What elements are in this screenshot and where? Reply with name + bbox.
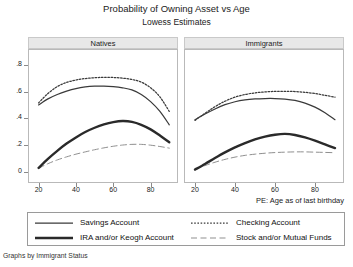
y-axis-tick-label: .8 [4, 60, 22, 67]
footer-caption: Graphs by Immigrant Status [3, 252, 88, 259]
y-axis-tick-label: 0 [4, 167, 22, 174]
x-axis-tickmark [235, 183, 236, 187]
legend-swatch-savings-account [34, 218, 74, 228]
legend-swatch-stock-mutual-funds [190, 233, 230, 243]
y-axis-tickmark [24, 172, 28, 173]
panel-header-natives-label: Natives [90, 39, 115, 48]
legend: Savings Account Checking Account IRA and… [27, 212, 345, 246]
x-axis-tick-label: 20 [186, 186, 204, 193]
plot-panel-natives [28, 49, 178, 183]
legend-item-ira-keogh-account: IRA and/or Keogh Account [34, 230, 174, 245]
series-line [195, 91, 335, 120]
series-line [195, 98, 335, 119]
x-axis-tickmark [195, 183, 196, 187]
series-line [195, 134, 335, 170]
page-title: Probability of Owning Asset vs Age [0, 3, 353, 14]
series-line [39, 86, 170, 125]
x-axis-tickmark [151, 183, 152, 187]
plot-panel-immigrants [184, 49, 344, 183]
x-axis-tickmark [76, 183, 77, 187]
plot-lines-natives [29, 50, 177, 182]
x-axis-tick-label: 60 [104, 186, 122, 193]
legend-label-checking-account: Checking Account [236, 218, 300, 227]
x-axis-tick-label: 80 [142, 186, 160, 193]
plot-lines-immigrants [185, 50, 343, 182]
panel-header-immigrants-label: Immigrants [245, 39, 282, 48]
chart-page: Probability of Owning Asset vs Age Lowes… [0, 0, 353, 267]
page-subtitle: Lowess Estimates [0, 17, 353, 27]
legend-label-ira-keogh-account: IRA and/or Keogh Account [80, 233, 174, 242]
x-axis-tick-label: 80 [306, 186, 324, 193]
x-axis-tickmark [113, 183, 114, 187]
panel-header-natives: Natives [28, 37, 178, 49]
legend-label-stock-mutual-funds: Stock and/or Mutual Funds [236, 233, 332, 242]
x-axis-title: PE: Age as of last birthday [0, 196, 344, 205]
x-axis-tick-label: 20 [30, 186, 48, 193]
series-line [39, 144, 170, 168]
y-axis-tick-label: .4 [4, 113, 22, 120]
legend-item-stock-mutual-funds: Stock and/or Mutual Funds [190, 230, 332, 245]
x-axis-tick-label: 40 [67, 186, 85, 193]
x-axis-tick-label: 60 [266, 186, 284, 193]
x-axis-tick-label: 40 [226, 186, 244, 193]
series-line [39, 121, 170, 168]
legend-item-savings-account: Savings Account [34, 215, 139, 230]
x-axis-tickmark [315, 183, 316, 187]
y-axis-tickmark [24, 65, 28, 66]
legend-item-checking-account: Checking Account [190, 215, 300, 230]
legend-swatch-ira-keogh-account [34, 233, 74, 243]
y-axis-tickmark [24, 92, 28, 93]
y-axis-tick-label: .2 [4, 140, 22, 147]
y-axis-tickmark [24, 118, 28, 119]
y-axis-tickmark [24, 145, 28, 146]
y-axis-tick-label: .6 [4, 87, 22, 94]
legend-label-savings-account: Savings Account [80, 218, 139, 227]
legend-swatch-checking-account [190, 218, 230, 228]
x-axis-tickmark [275, 183, 276, 187]
series-line [195, 152, 335, 169]
x-axis-tickmark [39, 183, 40, 187]
panel-header-immigrants: Immigrants [184, 37, 344, 49]
